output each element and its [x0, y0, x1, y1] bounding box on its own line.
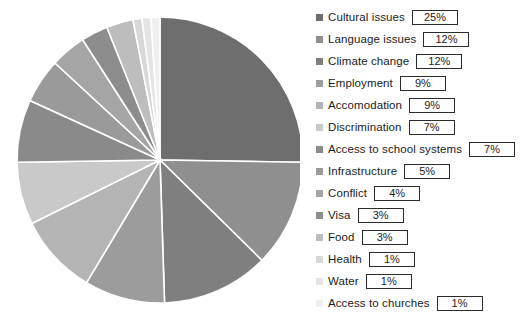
legend-item[interactable]: Discrimination7%	[310, 116, 531, 138]
legend-item[interactable]: Access to churches1%	[310, 292, 531, 314]
legend-item-value: 25%	[424, 11, 446, 23]
chart-legend: Cultural issues25%Language issues12%Clim…	[310, 6, 531, 321]
legend-item-value: 1%	[452, 297, 468, 309]
legend-value-box: 7%	[409, 120, 455, 135]
pie-chart-svg	[0, 0, 300, 325]
legend-swatch-icon	[316, 168, 323, 175]
legend-item-label: Water	[328, 275, 359, 288]
legend-item-value: 3%	[377, 231, 393, 243]
legend-item-label: Infrastructure	[328, 165, 397, 178]
legend-swatch-icon	[316, 300, 323, 307]
legend-item-value: 7%	[484, 143, 500, 155]
legend-value-box: 1%	[437, 296, 483, 311]
legend-swatch-icon	[316, 80, 323, 87]
legend-swatch-icon	[316, 124, 323, 131]
legend-value-box: 9%	[409, 98, 455, 113]
legend-value-box: 3%	[358, 208, 404, 223]
legend-swatch-icon	[316, 256, 323, 263]
legend-item[interactable]: Food3%	[310, 226, 531, 248]
legend-item-value: 12%	[428, 55, 450, 67]
legend-item-value: 1%	[384, 253, 400, 265]
legend-swatch-icon	[316, 234, 323, 241]
legend-item[interactable]: Health1%	[310, 248, 531, 270]
legend-item[interactable]: Water1%	[310, 270, 531, 292]
pie-slices-group	[17, 17, 300, 303]
legend-item[interactable]: Climate change12%	[310, 50, 531, 72]
legend-item[interactable]: Conflict4%	[310, 182, 531, 204]
pie-slice[interactable]	[160, 17, 300, 162]
legend-item-label: Climate change	[328, 55, 409, 68]
legend-value-box: 5%	[404, 164, 450, 179]
legend-swatch-icon	[316, 58, 323, 65]
legend-item-label: Conflict	[328, 187, 367, 200]
legend-value-box: 1%	[366, 274, 412, 289]
legend-swatch-icon	[316, 278, 323, 285]
legend-item-label: Food	[328, 231, 355, 244]
legend-item[interactable]: Visa3%	[310, 204, 531, 226]
pie-chart-page: Cultural issues25%Language issues12%Clim…	[0, 0, 531, 325]
legend-item-value: 9%	[424, 99, 440, 111]
legend-item-label: Discrimination	[328, 121, 402, 134]
legend-item-value: 9%	[415, 77, 431, 89]
legend-swatch-icon	[316, 14, 323, 21]
legend-item-value: 7%	[424, 121, 440, 133]
legend-item-value: 4%	[389, 187, 405, 199]
legend-swatch-icon	[316, 102, 323, 109]
legend-swatch-icon	[316, 146, 323, 153]
legend-value-box: 25%	[412, 10, 458, 25]
legend-item[interactable]: Language issues12%	[310, 28, 531, 50]
legend-value-box: 7%	[469, 142, 515, 157]
legend-item-label: Access to school systems	[328, 143, 462, 156]
legend-item-label: Accomodation	[328, 99, 402, 112]
legend-item-label: Access to churches	[328, 297, 430, 310]
legend-item-value: 5%	[419, 165, 435, 177]
legend-item[interactable]: Employment9%	[310, 72, 531, 94]
legend-item-label: Employment	[328, 77, 393, 90]
legend-value-box: 1%	[369, 252, 415, 267]
legend-item[interactable]: Accomodation9%	[310, 94, 531, 116]
legend-item-label: Health	[328, 253, 362, 266]
legend-item-value: 12%	[435, 33, 457, 45]
legend-item-value: 3%	[373, 209, 389, 221]
legend-value-box: 3%	[362, 230, 408, 245]
legend-item-value: 1%	[381, 275, 397, 287]
legend-item-label: Cultural issues	[328, 11, 405, 24]
legend-swatch-icon	[316, 212, 323, 219]
legend-swatch-icon	[316, 36, 323, 43]
legend-item[interactable]: Cultural issues25%	[310, 6, 531, 28]
legend-item-label: Language issues	[328, 33, 416, 46]
legend-value-box: 12%	[416, 54, 462, 69]
legend-item[interactable]: Infrastructure5%	[310, 160, 531, 182]
legend-value-box: 12%	[423, 32, 469, 47]
pie-chart-area	[0, 0, 300, 325]
legend-item[interactable]: Access to school systems7%	[310, 138, 531, 160]
legend-value-box: 4%	[374, 186, 420, 201]
legend-value-box: 9%	[400, 76, 446, 91]
legend-swatch-icon	[316, 190, 323, 197]
legend-item-label: Visa	[328, 209, 351, 222]
